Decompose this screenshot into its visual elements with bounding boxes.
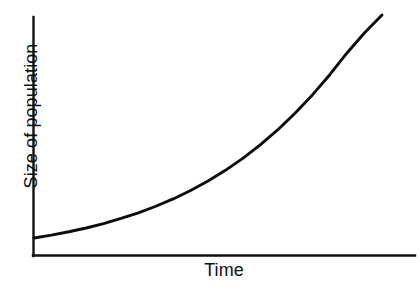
y-axis-label: Size of population — [22, 0, 44, 236]
exponential-growth-chart: Size of population Time — [0, 0, 420, 287]
chart-plot-area — [0, 0, 420, 287]
x-axis-label: Time — [33, 261, 415, 279]
population-growth-curve — [34, 15, 382, 238]
